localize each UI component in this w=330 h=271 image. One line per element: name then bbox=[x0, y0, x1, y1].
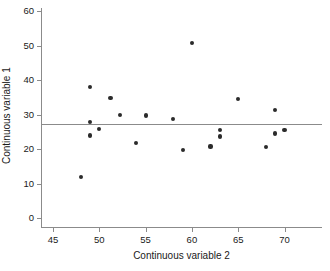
data-point bbox=[282, 128, 286, 132]
data-point bbox=[171, 117, 175, 121]
y-axis-line bbox=[41, 8, 42, 228]
x-axis-tick bbox=[146, 228, 147, 232]
data-point bbox=[118, 113, 122, 117]
x-axis-title-label: Continuous variable 2 bbox=[133, 250, 230, 261]
data-point bbox=[218, 134, 222, 138]
y-axis-tick bbox=[37, 184, 41, 185]
y-axis-tick bbox=[37, 149, 41, 150]
x-axis-tick-label: 55 bbox=[134, 235, 158, 245]
data-point bbox=[97, 127, 101, 131]
data-point bbox=[273, 108, 277, 112]
y-axis-tick-label: 60 bbox=[23, 6, 34, 16]
x-axis-tick bbox=[238, 228, 239, 232]
x-axis-line bbox=[41, 227, 322, 228]
data-point bbox=[190, 41, 194, 45]
x-axis-tick-label: 65 bbox=[226, 235, 250, 245]
data-point bbox=[144, 113, 148, 117]
y-axis-tick-label: 10 bbox=[23, 179, 34, 189]
data-point bbox=[236, 97, 240, 101]
x-axis-tick-label: 45 bbox=[41, 235, 65, 245]
data-point bbox=[273, 131, 277, 135]
data-point bbox=[208, 144, 212, 148]
data-point bbox=[88, 85, 92, 89]
data-point bbox=[181, 148, 185, 152]
x-axis-tick bbox=[285, 228, 286, 232]
data-point bbox=[79, 175, 83, 179]
x-axis-tick bbox=[192, 228, 193, 232]
x-axis-tick-label: 50 bbox=[87, 235, 111, 245]
data-point bbox=[134, 141, 138, 145]
data-point bbox=[88, 133, 92, 137]
y-axis-tick-label: 20 bbox=[23, 144, 34, 154]
scatter-plot-figure: Continuous variable 1 0102030405060 4550… bbox=[0, 0, 330, 271]
data-point bbox=[108, 96, 112, 100]
x-axis-tick bbox=[99, 228, 100, 232]
y-axis-tick bbox=[37, 218, 41, 219]
y-axis-tick-label: 30 bbox=[23, 110, 34, 120]
data-point bbox=[264, 145, 268, 149]
y-axis-tick bbox=[37, 11, 41, 12]
y-axis-tick-label: 0 bbox=[29, 213, 34, 223]
reference-line bbox=[41, 124, 322, 125]
y-axis-tick-label: 50 bbox=[23, 41, 34, 51]
y-axis-tick-label: 40 bbox=[23, 75, 34, 85]
y-axis-tick bbox=[37, 46, 41, 47]
y-axis-tick bbox=[37, 80, 41, 81]
x-axis-tick bbox=[53, 228, 54, 232]
x-axis-tick-label: 60 bbox=[180, 235, 204, 245]
x-axis-title: Continuous variable 2 bbox=[41, 251, 322, 261]
y-axis-tick bbox=[37, 115, 41, 116]
x-axis-tick-label: 70 bbox=[273, 235, 297, 245]
y-axis-tick-group: 0102030405060 bbox=[0, 0, 34, 271]
data-point bbox=[218, 128, 222, 132]
